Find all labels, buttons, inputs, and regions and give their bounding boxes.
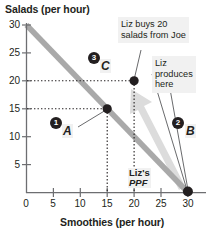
data-point-c — [130, 76, 139, 85]
point-label-a: A — [62, 124, 73, 138]
data-point-a — [103, 104, 112, 113]
x-tick-label: 0 — [17, 198, 35, 209]
y-tick-label: 5 — [0, 159, 20, 170]
point-label-c: C — [100, 59, 111, 73]
annotation-liz-produces-callout: Liz produces here — [152, 56, 196, 93]
point-label-b: B — [185, 124, 196, 138]
y-axis-title: Salads (per hour) — [5, 3, 90, 15]
data-point-b — [183, 187, 193, 197]
x-axis-title: Smoothies (per hour) — [60, 216, 164, 228]
y-tick-label: 10 — [0, 131, 20, 142]
chart-container: Salads (per hour) Smoothies (per hour) 3… — [0, 0, 212, 233]
x-tick-label: 15 — [98, 198, 116, 209]
guide-lines — [27, 81, 134, 192]
annotation-liz-buys-callout: Liz buys 20 salads from Joe — [118, 17, 189, 43]
step-badge-2: 2 — [172, 117, 184, 129]
ppf-curve-label: Liz's PPF — [128, 168, 151, 188]
x-tick-label: 10 — [71, 198, 89, 209]
x-tick-label: 20 — [125, 198, 143, 209]
y-tick-label: 25 — [0, 47, 20, 58]
ppf-label-line2: PPF — [129, 178, 150, 188]
x-tick-label: 25 — [152, 198, 170, 209]
leader-a-to-point — [78, 110, 106, 127]
y-tick-label: 30 — [0, 19, 20, 30]
step-badge-3: 3 — [88, 52, 100, 64]
leader-buy-to-c — [134, 50, 141, 80]
x-tick-label: 5 — [44, 198, 62, 209]
step-badge-1: 1 — [50, 117, 62, 129]
y-tick-label: 15 — [0, 103, 20, 114]
y-tick-label: 20 — [0, 75, 20, 86]
x-tick-label: 30 — [179, 198, 197, 209]
